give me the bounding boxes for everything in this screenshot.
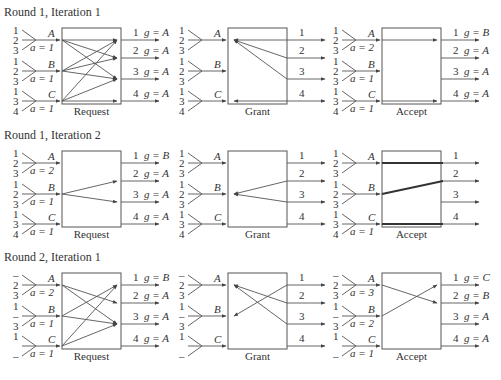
output-2: 2g = A (441, 44, 489, 58)
connection-arrow (62, 71, 117, 79)
input-C: 134Ca = 1 (13, 208, 60, 240)
output-port-label: 2 (133, 167, 139, 179)
output-port-label: 1 (453, 271, 459, 283)
output-2: 2 (287, 289, 325, 303)
row-3: Round 2, Iteration 1Request–23Aa = 21–3B… (4, 250, 490, 362)
input-B: 123B (333, 178, 380, 210)
output-port-label: 2 (299, 44, 305, 56)
input-port-label: 4 (179, 228, 185, 240)
grant-pointer: g = B (464, 26, 489, 38)
output-3: 3g = A (121, 65, 169, 79)
output-port-label: 1 (133, 26, 139, 38)
input-name: C (214, 88, 222, 100)
connection-arrow (382, 181, 443, 194)
input-name: A (367, 27, 375, 39)
output-port-label: 1 (133, 271, 139, 283)
accept-pointer: a = 1 (350, 225, 374, 237)
connection-arrow (62, 79, 117, 101)
grant-pointer: g = A (144, 65, 169, 77)
input-B: 123Ba = 1 (333, 55, 380, 87)
output-2: 2g = B (441, 289, 489, 303)
grant-pointer: g = B (144, 149, 169, 161)
accept-pointer: a = 1 (350, 72, 374, 84)
output-port-label: 3 (299, 310, 305, 322)
grant-pointer: g = B (144, 271, 169, 283)
output-port-label: 3 (299, 188, 305, 200)
output-port-label: 1 (133, 149, 139, 161)
input-port-label: – (178, 350, 185, 362)
output-port-label: 4 (453, 87, 459, 99)
input-name: B (214, 181, 221, 193)
input-name: A (47, 150, 55, 162)
output-port-label: 2 (133, 44, 139, 56)
output-1: 1 (287, 149, 325, 163)
input-name: B (48, 303, 55, 315)
accept-pointer: a = 2 (350, 317, 374, 329)
row-title: Round 2, Iteration 1 (4, 250, 101, 264)
grant-pointer: g = A (144, 188, 169, 200)
switch-box (228, 273, 287, 349)
panel-request: Request123Aa = 2123Ba = 1134Ca = 11g = B… (13, 147, 169, 240)
accept-pointer: a = 1 (30, 72, 54, 84)
output-2: 2 (441, 167, 479, 181)
panel-label: Accept (396, 105, 427, 117)
panel-label: Grant (245, 350, 270, 362)
accept-pointer: a = 2 (30, 286, 54, 298)
panel-label: Grant (245, 105, 270, 117)
output-port-label: 3 (453, 65, 459, 77)
output-4: 4g = A (441, 87, 489, 101)
input-name: B (214, 58, 221, 70)
input-port-label: 1 (333, 330, 339, 342)
output-2: 2 (287, 44, 325, 58)
input-name: B (368, 181, 375, 193)
output-1: 1 (441, 149, 479, 163)
output-port-label: 4 (133, 332, 139, 344)
input-C: 134Ca = 1 (333, 208, 380, 240)
row-2: Round 1, Iteration 2Request123Aa = 2123B… (4, 128, 479, 240)
output-4: 4 (441, 210, 479, 224)
output-port-label: 2 (453, 167, 459, 179)
accept-pointer: a = 1 (350, 102, 374, 114)
grant-pointer: g = A (464, 87, 489, 99)
output-2: 2g = A (121, 289, 169, 303)
panel-label: Accept (396, 228, 427, 240)
output-4: 4g = A (441, 332, 489, 346)
output-port-label: 1 (453, 149, 459, 161)
output-port-label: 3 (299, 65, 305, 77)
input-A: –23Aa = 3 (332, 269, 380, 301)
output-4: 4g = A (121, 332, 169, 346)
input-A: 123Aa = 1 (13, 24, 60, 56)
output-2: 2g = A (121, 167, 169, 181)
output-port-label: 2 (133, 289, 139, 301)
input-name: C (48, 333, 56, 345)
input-name: C (214, 333, 222, 345)
connection-arrow (62, 194, 117, 202)
input-name: C (368, 333, 376, 345)
grant-pointer: g = A (144, 210, 169, 222)
panel-grant: Grant123A123B134C1234 (179, 24, 325, 117)
panel-accept: Accept123A123B134Ca = 11234 (333, 147, 479, 240)
output-port-label: 3 (453, 310, 459, 322)
output-3: 3g = A (441, 65, 489, 79)
input-A: 123Aa = 2 (333, 24, 380, 56)
panel-label: Request (74, 350, 109, 362)
output-3: 3g = A (441, 310, 489, 324)
panel-label: Request (74, 105, 109, 117)
connection-arrow (62, 324, 117, 346)
input-name: A (367, 272, 375, 284)
input-port-label: 1 (179, 330, 185, 342)
switch-box (228, 151, 287, 227)
input-A: 123A (179, 24, 226, 56)
input-port-label: – (332, 350, 339, 362)
output-3: 3 (287, 65, 325, 79)
panel-label: Request (74, 228, 109, 240)
accept-pointer: a = 1 (30, 225, 54, 237)
output-3: 3 (287, 188, 325, 202)
input-C: 134C (179, 85, 226, 117)
input-A: 123A (333, 147, 380, 179)
connection-arrow (234, 194, 287, 202)
output-3: 3 (287, 310, 325, 324)
output-3: 3g = A (121, 310, 169, 324)
output-1: 1g = C (441, 271, 490, 285)
connection-arrow (62, 316, 117, 324)
